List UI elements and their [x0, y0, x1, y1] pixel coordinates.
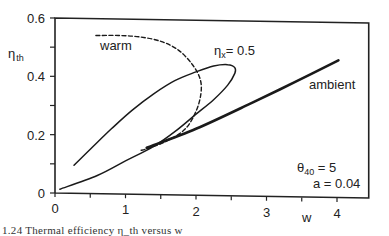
y-axis-ticks: 00.20.40.6: [27, 11, 55, 201]
figure-caption: 1.24 Thermal efficiency η_th versus w: [2, 224, 183, 236]
eta-x-label: ηx= 0.5: [214, 43, 255, 60]
theta-param-label: θ40 = 5: [297, 160, 336, 177]
y-tick-label: 0.4: [27, 69, 45, 84]
x-axis-label: w: [301, 210, 312, 225]
x-tick-label: 3: [263, 205, 270, 220]
ambient-curve: [147, 60, 339, 148]
x-tick-label: 2: [192, 204, 199, 219]
x-tick-label: 0: [51, 201, 58, 216]
x-tick-label: 1: [122, 202, 129, 217]
ambient-label: ambient: [309, 77, 356, 92]
chart-figure: 01234 00.20.40.6 ηth w warm ηx= 0.5 ambi…: [0, 0, 389, 236]
y-tick-label: 0.6: [27, 11, 45, 26]
warm-label: warm: [99, 38, 132, 53]
eta-x-curve: [60, 65, 236, 190]
y-tick-label: 0: [38, 186, 45, 201]
y-tick-label: 0.2: [27, 128, 45, 143]
a-param-label: a = 0.04: [313, 176, 360, 191]
x-tick-label: 4: [333, 206, 340, 221]
y-axis-label: ηth: [8, 46, 24, 63]
